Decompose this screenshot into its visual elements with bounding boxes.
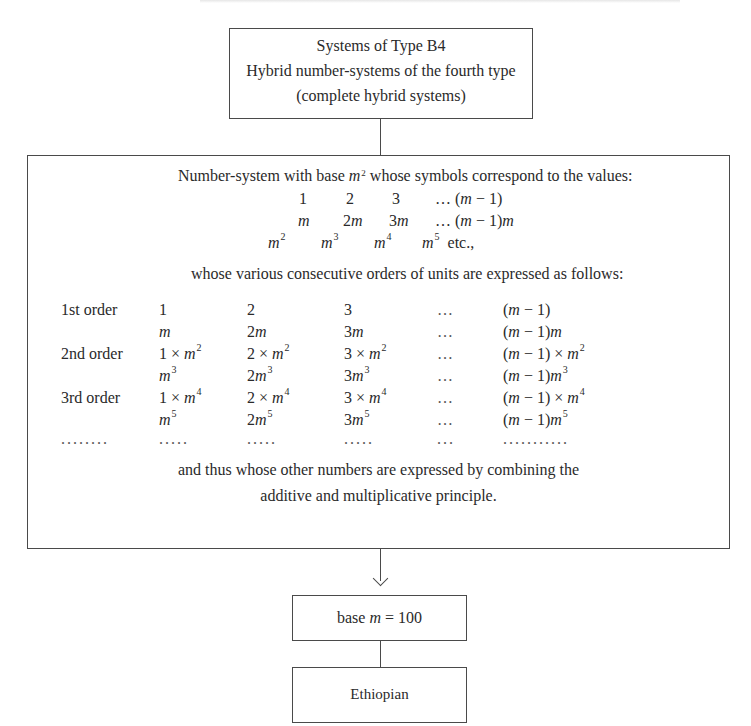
order-cell: … — [437, 301, 455, 319]
base-post: = 100 — [381, 609, 422, 626]
order-cell: 2m3 — [247, 367, 273, 385]
order-cell: 3m5 — [344, 411, 370, 429]
intro-exp: 2 — [361, 168, 366, 178]
intro-text: Number-system with base m2 whose symbols… — [178, 166, 632, 186]
value-3m: 3m — [389, 212, 409, 230]
closing-text-line2: additive and multiplicative principle. — [28, 486, 729, 506]
order-cell: (m − 1)m — [503, 323, 562, 341]
value-2m: 2m — [343, 212, 363, 230]
order-cell: (m − 1) × m4 — [503, 389, 585, 407]
order-cell: ..... — [159, 430, 189, 448]
type-title: Systems of Type B4 — [230, 36, 532, 56]
value-m4: m4 — [374, 234, 392, 252]
type-b4-box: Systems of Type B4 Hybrid number-systems… — [229, 28, 533, 119]
order-cell: … — [437, 367, 455, 385]
base-pre: base — [337, 609, 369, 626]
order-cell: ..... — [344, 430, 374, 448]
connector-line-bottom — [380, 641, 381, 667]
value-3: 3 — [392, 190, 400, 208]
order-label-3: 3rd order — [61, 389, 120, 407]
arrow-down-icon — [373, 571, 389, 587]
order-cell: 3 — [344, 301, 352, 319]
ellipsis-row-label: ........ — [61, 430, 109, 448]
order-cell: 1 × m4 — [159, 389, 202, 407]
order-cell: (m − 1) — [503, 301, 550, 319]
order-cell: 2 — [247, 301, 255, 319]
value-m5: m5 etc., — [422, 234, 474, 252]
order-cell: 3m3 — [344, 367, 370, 385]
order-cell: 2 × m2 — [247, 345, 290, 363]
ethiopian-label: Ethiopian — [293, 686, 466, 703]
order-cell: 3 × m2 — [344, 345, 387, 363]
intro-post: whose symbols correspond to the values: — [366, 167, 633, 184]
intro-pre: Number-system with base — [178, 167, 349, 184]
order-cell: 2m — [247, 323, 267, 341]
base-var: m — [369, 609, 381, 626]
value-2: 2 — [346, 190, 354, 208]
closing-text-line1: and thus whose other numbers are express… — [28, 460, 729, 480]
value-m-1-m: … (m − 1)m — [435, 212, 514, 230]
order-cell: 3 × m4 — [344, 389, 387, 407]
order-cell: 3m — [344, 323, 364, 341]
order-cell: (m − 1) × m2 — [503, 345, 585, 363]
order-cell: m5 — [159, 411, 177, 429]
order-cell: ..... — [247, 430, 277, 448]
base-label: base m = 100 — [293, 608, 466, 628]
order-cell: (m − 1)m5 — [503, 411, 568, 429]
orders-intro: whose various consecutive orders of unit… — [191, 264, 623, 284]
value-1: 1 — [299, 190, 307, 208]
order-cell: … — [437, 345, 455, 363]
order-cell: 1 — [159, 301, 167, 319]
number-system-box: Number-system with base m2 whose symbols… — [27, 155, 730, 549]
order-cell: m — [159, 323, 171, 341]
order-cell: ........... — [503, 430, 569, 448]
connector-line-top — [380, 119, 381, 155]
order-cell: 2 × m4 — [247, 389, 290, 407]
order-cell: m3 — [159, 367, 177, 385]
value-m-1: … (m − 1) — [435, 190, 502, 208]
order-cell: … — [437, 389, 455, 407]
order-cell: ... — [437, 430, 455, 448]
order-cell: (m − 1)m3 — [503, 367, 568, 385]
top-page-edge — [200, 0, 680, 3]
value-m2: m2 — [268, 234, 286, 252]
order-cell: … — [437, 323, 455, 341]
base-box: base m = 100 — [292, 595, 467, 641]
order-cell: 2m5 — [247, 411, 273, 429]
type-subtitle: Hybrid number-systems of the fourth type — [230, 61, 532, 81]
intro-var: m — [349, 167, 361, 184]
value-m: m — [298, 212, 310, 230]
order-cell: 1 × m2 — [159, 345, 202, 363]
ethiopian-box: Ethiopian — [292, 667, 467, 723]
order-label-2: 2nd order — [61, 345, 123, 363]
value-m3: m3 — [321, 234, 339, 252]
order-cell: … — [437, 411, 455, 429]
order-label-1: 1st order — [61, 301, 117, 319]
type-description: (complete hybrid systems) — [230, 86, 532, 106]
